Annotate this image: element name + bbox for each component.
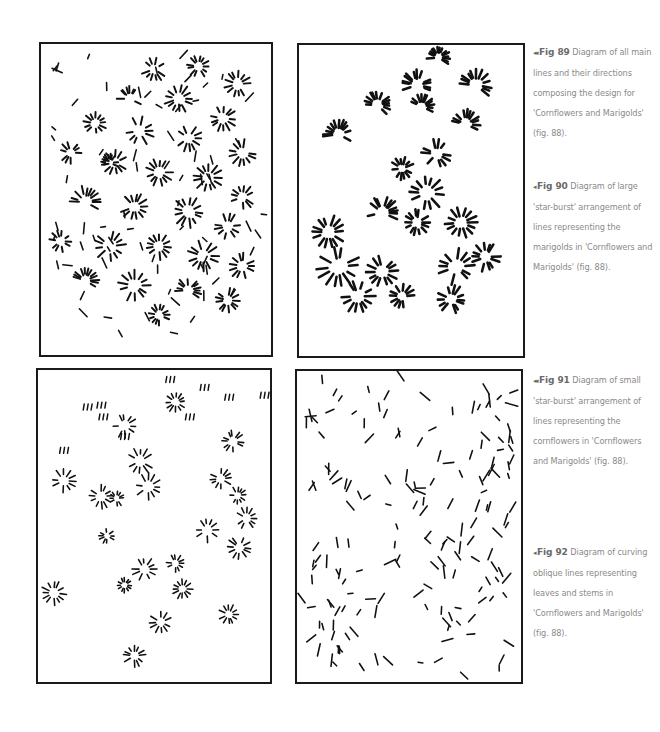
figure-92-caption: ◂Fig 92 Diagram of curving oblique lines… [533, 542, 657, 643]
double-arrow-left-icon: ◂◂ [533, 377, 537, 385]
figure-label: Fig 91 [539, 375, 570, 385]
arrow-left-icon: ◂ [533, 183, 535, 191]
figure-90-drawing [299, 45, 523, 356]
figure-91-caption: ◂◂Fig 91 Diagram of small 'star-burst' a… [533, 370, 657, 471]
figure-89-caption: ◂◂Fig 89 Diagram of all main lines and t… [533, 42, 657, 143]
double-arrow-left-icon: ◂◂ [533, 49, 537, 57]
caption-text: Diagram of large 'star-burst' arrangemen… [533, 181, 652, 272]
caption-text: Diagram of curving oblique lines represe… [533, 547, 647, 638]
caption-text: Diagram of all main lines and their dire… [533, 47, 651, 138]
caption-text: Diagram of small 'star-burst' arrangemen… [533, 375, 641, 466]
figure-91-panel [36, 368, 272, 684]
figure-89-panel [39, 42, 273, 357]
figure-89-drawing [41, 44, 271, 355]
figure-92-drawing [297, 371, 521, 682]
figure-90-panel [297, 43, 525, 358]
figure-91-drawing [38, 370, 270, 682]
figure-label: Fig 92 [537, 547, 568, 557]
figure-90-caption: ◂Fig 90 Diagram of large 'star-burst' ar… [533, 176, 657, 277]
figure-92-panel [295, 369, 523, 684]
figure-label: Fig 89 [539, 47, 570, 57]
arrow-left-icon: ◂ [533, 549, 535, 557]
figure-label: Fig 90 [537, 181, 568, 191]
